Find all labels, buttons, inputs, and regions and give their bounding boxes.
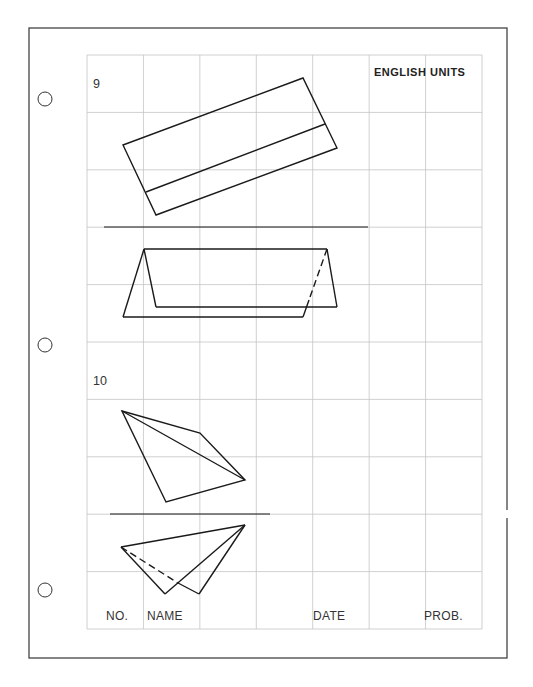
problem-9-front-view-right-outer [327, 249, 337, 307]
footer-prob-label: PROB. [424, 609, 463, 623]
problem-number-10: 10 [93, 374, 107, 388]
drawing-canvas [0, 0, 533, 687]
problem-9-front-view-hidden-edge [309, 249, 327, 300]
punch-hole-icon [38, 92, 52, 106]
footer-name-label: NAME [147, 609, 183, 623]
footer-no-label: NO. [106, 609, 128, 623]
problem-9-top-view-outline [123, 78, 337, 215]
problem-9-front-view-left-outer [123, 249, 144, 317]
units-label: ENGLISH UNITS [374, 66, 465, 78]
problem-10-top-view-diagonal [122, 411, 245, 480]
problem-9-top-view-inner-line [146, 124, 325, 192]
punch-holes [38, 92, 52, 597]
problem-10-front-view-visible-edge [178, 583, 199, 594]
problem-number-9: 9 [93, 77, 100, 91]
punch-hole-icon [38, 338, 52, 352]
problem-10-front-view-cross-edge [165, 525, 245, 594]
sheet-border [29, 28, 507, 658]
problem-9-front-view-visible-edge [303, 300, 309, 317]
problem-10-front-view-top-edge [121, 525, 245, 547]
problem-9-front-view-left-inner [144, 249, 156, 307]
worksheet-page: ENGLISH UNITS 9 10 NO. NAME DATE PROB. [0, 0, 533, 687]
footer-date-label: DATE [313, 609, 345, 623]
punch-hole-icon [38, 583, 52, 597]
